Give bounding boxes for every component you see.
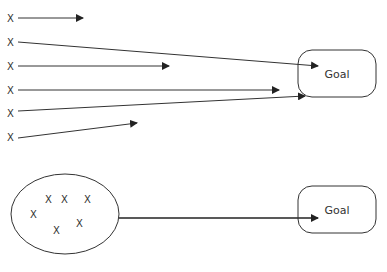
x-mark: X — [53, 225, 60, 236]
x-mark: X — [7, 132, 14, 143]
x-mark: X — [7, 13, 14, 24]
x-mark: X — [84, 194, 91, 205]
x-mark: X — [30, 209, 37, 220]
x-mark: X — [61, 194, 68, 205]
x-mark: X — [76, 218, 83, 229]
x-mark: X — [7, 37, 14, 48]
aligned-team-group: X X X X X X Goal — [11, 174, 376, 254]
x-mark: X — [45, 194, 52, 205]
x-mark: X — [7, 61, 14, 72]
individual-efforts-group: X X X X X X Goal — [7, 13, 376, 143]
team-ellipse — [11, 174, 119, 254]
goal-label: Goal — [324, 68, 349, 81]
arrow — [18, 123, 137, 138]
arrow — [18, 96, 305, 111]
arrow — [18, 42, 318, 66]
goal-label: Goal — [324, 204, 349, 217]
x-mark: X — [7, 85, 14, 96]
diagram-canvas: X X X X X X Goal X X X X X X Goal — [0, 0, 387, 272]
x-mark: X — [7, 108, 14, 119]
